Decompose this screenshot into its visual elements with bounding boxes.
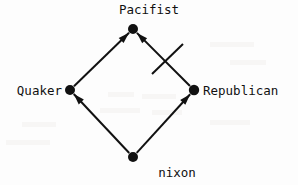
node-dot-quaker[interactable]	[65, 85, 75, 95]
node-label-quaker: Quaker	[0, 84, 62, 97]
node-dot-pacifist[interactable]	[128, 24, 138, 34]
edge-line-republican-to-pacifist	[137, 33, 190, 86]
edge-line-nixon-to-quaker	[74, 94, 129, 153]
strike-mark-layer	[152, 44, 183, 74]
node-dot-republican[interactable]	[189, 85, 199, 95]
node-label-nixon: nixon	[0, 166, 298, 179]
edge-nixon-to-republican	[137, 94, 190, 153]
edges-layer	[74, 33, 190, 153]
node-label-pacifist: Pacifist	[0, 3, 298, 16]
edge-quaker-to-pacifist	[74, 33, 129, 86]
edge-line-quaker-to-pacifist	[74, 33, 129, 86]
edge-nixon-to-quaker	[74, 94, 129, 153]
node-label-republican: Republican	[203, 84, 278, 97]
edge-line-nixon-to-republican	[137, 94, 190, 153]
edge-republican-to-pacifist	[137, 33, 190, 86]
nodes-layer	[65, 24, 199, 162]
nixon-diamond-diagram: Pacifist Quaker Republican nixon	[0, 0, 298, 185]
negation-slash-icon	[152, 44, 183, 74]
node-dot-nixon[interactable]	[128, 152, 138, 162]
